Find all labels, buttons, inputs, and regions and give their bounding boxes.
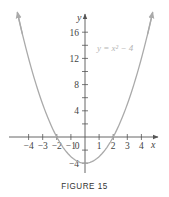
- y-tick-label: 12: [70, 54, 80, 64]
- y-axis-label: y: [76, 12, 82, 23]
- x-tick-label: 1: [97, 141, 102, 151]
- curve-arrow-right: [148, 12, 153, 34]
- y-tick-label: 16: [70, 28, 80, 38]
- x-tick-label: −4: [24, 141, 34, 151]
- parabola-graph: −4−3−2−11234161284−40 y = x² − 4 x y: [0, 0, 169, 197]
- equation-label: y = x² − 4: [96, 43, 134, 53]
- x-tick-label: 2: [111, 141, 116, 151]
- x-tick-label: −3: [38, 141, 48, 151]
- x-tick-label: 3: [125, 141, 130, 151]
- x-tick-label: 4: [139, 141, 144, 151]
- origin-label: 0: [75, 141, 80, 151]
- y-tick-label: 4: [74, 106, 79, 116]
- x-axis-label: x: [150, 139, 156, 150]
- curve-arrow-left: [17, 12, 22, 34]
- y-tick-label: 8: [74, 80, 79, 90]
- figure-caption: FIGURE 15: [13, 180, 157, 191]
